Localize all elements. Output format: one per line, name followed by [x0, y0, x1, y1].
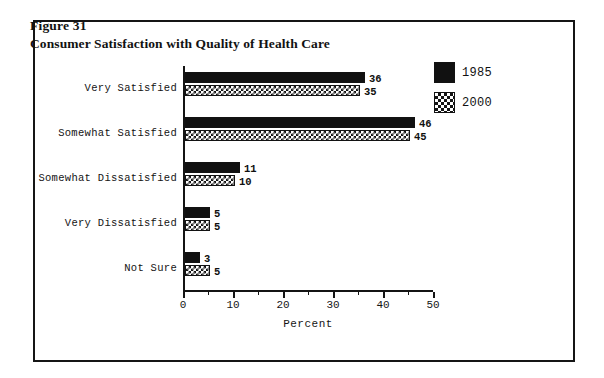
- x-tick-15: [258, 292, 259, 295]
- bar-1985-somewhat-dissatisfied: [185, 162, 240, 173]
- bar-2000-somewhat-satisfied: [185, 130, 410, 141]
- x-tick-label-10: 10: [218, 299, 248, 311]
- bar-2000-somewhat-dissatisfied: [185, 175, 235, 186]
- legend-swatch-1985: [434, 62, 455, 83]
- bar-value-1985-very-satisfied: 36: [369, 73, 382, 85]
- x-tick-45: [408, 292, 409, 295]
- bar-2000-very-satisfied: [185, 85, 360, 96]
- bar-value-2000-somewhat-satisfied: 45: [414, 131, 427, 143]
- x-tick-5: [208, 292, 209, 295]
- x-tick-label-40: 40: [368, 299, 398, 311]
- category-label-very-satisfied: Very Satisfied: [0, 82, 177, 94]
- x-tick-label-30: 30: [318, 299, 348, 311]
- bar-value-1985-somewhat-satisfied: 46: [419, 118, 432, 130]
- bar-value-2000-somewhat-dissatisfied: 10: [239, 176, 252, 188]
- bar-value-2000-very-satisfied: 35: [364, 86, 377, 98]
- x-tick-0: [183, 292, 185, 298]
- x-tick-20: [283, 292, 285, 298]
- category-label-somewhat-dissatisfied: Somewhat Dissatisfied: [0, 172, 177, 184]
- x-tick-label-20: 20: [268, 299, 298, 311]
- category-label-not-sure: Not Sure: [0, 262, 177, 274]
- bar-1985-not-sure: [185, 252, 200, 263]
- legend-item-2000: 2000: [434, 92, 492, 113]
- x-tick-35: [358, 292, 359, 295]
- legend-item-1985: 1985: [434, 62, 492, 83]
- category-label-somewhat-satisfied: Somewhat Satisfied: [0, 127, 177, 139]
- bar-value-1985-very-dissatisfied: 5: [214, 208, 220, 220]
- bar-1985-very-dissatisfied: [185, 207, 210, 218]
- x-tick-50: [433, 292, 435, 298]
- chart-legend: 19852000: [434, 62, 492, 122]
- x-tick-40: [383, 292, 385, 298]
- legend-label-2000: 2000: [462, 96, 492, 110]
- x-tick-25: [308, 292, 309, 295]
- bar-1985-very-satisfied: [185, 72, 365, 83]
- x-tick-10: [233, 292, 235, 298]
- x-tick-label-0: 0: [168, 299, 198, 311]
- x-axis-title: Percent: [183, 318, 433, 330]
- bar-1985-somewhat-satisfied: [185, 117, 415, 128]
- category-label-very-dissatisfied: Very Dissatisfied: [0, 217, 177, 229]
- chart-plot-area: 01020304050 Percent Very SatisfiedSomewh…: [0, 0, 542, 342]
- bar-value-2000-not-sure: 5: [214, 266, 220, 278]
- bar-value-1985-not-sure: 3: [204, 253, 210, 265]
- x-tick-30: [333, 292, 335, 298]
- bar-value-1985-somewhat-dissatisfied: 11: [244, 163, 257, 175]
- x-tick-label-50: 50: [418, 299, 448, 311]
- legend-swatch-2000: [434, 92, 455, 113]
- bar-2000-not-sure: [185, 265, 210, 276]
- bar-2000-very-dissatisfied: [185, 220, 210, 231]
- legend-label-1985: 1985: [462, 66, 492, 80]
- bar-value-2000-very-dissatisfied: 5: [214, 221, 220, 233]
